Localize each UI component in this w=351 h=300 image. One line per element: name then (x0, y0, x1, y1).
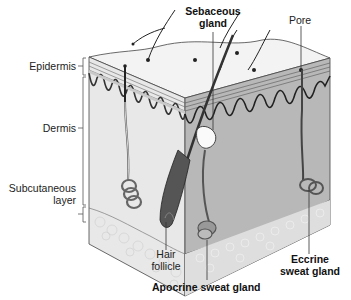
label-eccrine-line2: sweat gland (274, 265, 346, 277)
label-sebaceous-line2: gland (180, 17, 246, 29)
label-apocrine-sweat-gland: Apocrine sweat gland (152, 281, 261, 293)
label-hair-line2: follicle (144, 260, 188, 272)
label-subcutaneous-line2: layer (0, 194, 76, 206)
label-eccrine-line1: Eccrine (274, 253, 346, 265)
layer-brackets (78, 58, 86, 222)
label-hair-line1: Hair (144, 248, 188, 260)
label-pore: Pore (289, 14, 311, 26)
label-epidermis: Epidermis (8, 60, 76, 72)
label-sebaceous-line1: Sebaceous (180, 5, 246, 17)
skin-diagram: Epidermis Dermis Subcutaneous layer Seba… (0, 0, 351, 300)
label-dermis: Dermis (8, 122, 76, 134)
label-subcutaneous-line1: Subcutaneous (0, 182, 76, 194)
